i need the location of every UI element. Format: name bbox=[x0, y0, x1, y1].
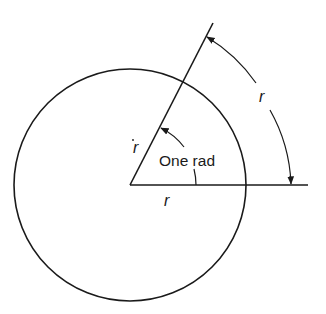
radian-diagram: r r r One rad bbox=[0, 0, 326, 314]
angle-label: One rad bbox=[159, 152, 215, 169]
tick-mark bbox=[132, 139, 134, 141]
angle-arc-lower bbox=[194, 169, 196, 185]
outer-arc-upper bbox=[207, 37, 256, 83]
horizontal-radius-label: r bbox=[164, 192, 170, 209]
outer-arc-lower bbox=[270, 110, 291, 184]
angle-arc-upper bbox=[161, 128, 184, 147]
arc-length-label: r bbox=[259, 88, 265, 105]
slanted-radius-label: r bbox=[133, 139, 139, 156]
